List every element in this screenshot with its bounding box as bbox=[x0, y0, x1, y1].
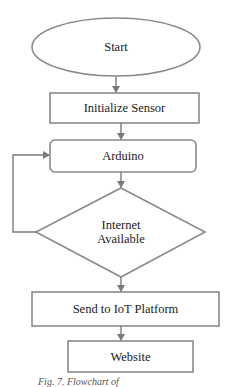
website-label: Website bbox=[68, 350, 193, 364]
figure-caption: Fig. 7. Flowchart of bbox=[38, 376, 119, 387]
initialize-sensor-label: Initialize Sensor bbox=[50, 101, 199, 115]
arrow-loop-back-to-arduino bbox=[13, 155, 49, 232]
send-to-iot-label: Send to IoT Platform bbox=[32, 302, 219, 316]
arduino-label: Arduino bbox=[50, 149, 196, 163]
internet-label: Internet bbox=[71, 218, 171, 232]
start-label: Start bbox=[76, 40, 156, 54]
available-label: Available bbox=[71, 232, 171, 246]
